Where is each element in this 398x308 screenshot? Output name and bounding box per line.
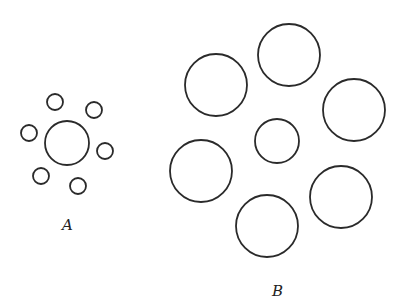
figure-b: B bbox=[170, 24, 385, 300]
figure-label-a: A bbox=[60, 216, 73, 234]
surround-circle-a bbox=[47, 94, 63, 110]
center-circle-b bbox=[255, 119, 299, 163]
surround-circle-a bbox=[33, 168, 49, 184]
surround-circle-b bbox=[310, 166, 372, 228]
surround-circle-a bbox=[86, 102, 102, 118]
surround-circle-a bbox=[97, 143, 113, 159]
surround-circle-b bbox=[185, 54, 247, 116]
surround-circle-b bbox=[170, 140, 232, 202]
surround-circle-a bbox=[21, 125, 37, 141]
center-circle-a bbox=[45, 121, 89, 165]
surround-circle-b bbox=[236, 195, 298, 257]
surround-circle-a bbox=[70, 178, 86, 194]
figure-label-b: B bbox=[271, 282, 283, 300]
illusion-diagram: A B bbox=[0, 0, 398, 308]
surround-circle-b bbox=[258, 24, 320, 86]
surround-circle-b bbox=[323, 79, 385, 141]
figure-a: A bbox=[21, 94, 113, 234]
